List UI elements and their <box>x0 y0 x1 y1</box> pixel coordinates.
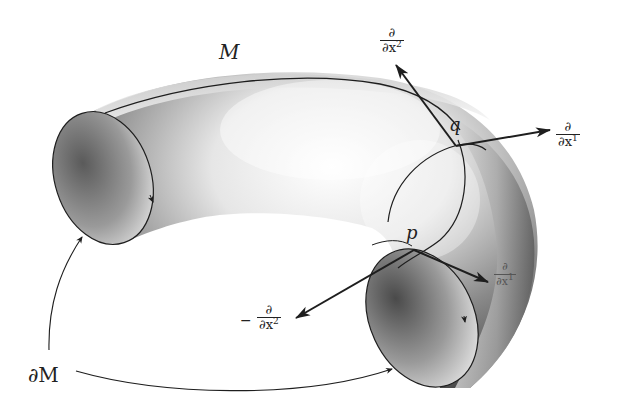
boundary-label: ∂M <box>28 363 59 387</box>
label-q-d-dx2: ∂ ∂x2 <box>380 26 404 55</box>
diagram-canvas <box>0 0 624 409</box>
point-q-label: q <box>449 114 461 135</box>
torus-diagram: M q p ∂M ∂ ∂x2 ∂ ∂x1 ∂ ∂x1 − ∂ ∂x2 <box>0 0 624 409</box>
boundary-arrow-right <box>76 369 392 391</box>
minus-sign: − <box>240 312 252 328</box>
point-p-label: p <box>406 222 418 243</box>
label-p-neg-d-dx2: ∂ ∂x2 <box>257 303 281 332</box>
label-q-d-dx1: ∂ ∂x1 <box>556 120 580 149</box>
label-p-d-dx1: ∂ ∂x1 <box>494 260 516 289</box>
boundary-arrow-left <box>49 237 82 350</box>
manifold-label: M <box>219 40 239 64</box>
